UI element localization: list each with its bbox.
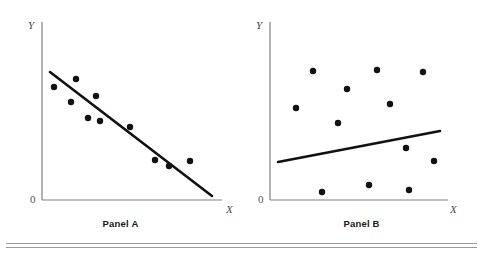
data-point [319,189,325,195]
data-point [187,158,193,164]
data-point [85,115,91,121]
data-point [166,163,172,169]
panel-b-caption: Panel B [241,219,482,229]
panel-b-x-axis-label: X [450,204,457,215]
panel-b-trendline [278,131,440,162]
panel-b-data-points [293,67,437,195]
panel-a: Y X 0 Panel A [0,0,241,254]
data-point [420,69,426,75]
data-point [403,145,409,151]
data-point [97,118,103,124]
data-point [93,93,99,99]
panel-b-origin-label: 0 [258,194,264,205]
data-point [374,67,380,73]
panel-b: Y X 0 Panel B [241,0,482,254]
panel-b-plot [241,0,482,254]
panel-a-y-axis-label: Y [28,20,34,31]
data-point [152,157,158,163]
divider-line-top [6,243,477,244]
panel-a-plot [0,0,241,254]
panel-a-x-axis-label: X [226,204,233,215]
data-point [387,101,393,107]
data-point [310,68,316,74]
data-point [293,105,299,111]
data-point [335,120,341,126]
data-point [366,182,372,188]
data-point [344,86,350,92]
panel-b-y-axis-label: Y [256,20,262,31]
double-rule-divider [0,240,483,252]
figure-container: Y X 0 Panel A [0,0,483,254]
data-point [406,187,412,193]
data-point [51,84,57,90]
panel-a-trendline [50,72,212,196]
divider-line-bottom [6,247,477,248]
data-point [127,124,133,130]
panel-a-caption: Panel A [0,219,241,229]
data-point [73,76,79,82]
data-point [68,99,74,105]
panel-a-origin-label: 0 [30,194,36,205]
data-point [431,158,437,164]
